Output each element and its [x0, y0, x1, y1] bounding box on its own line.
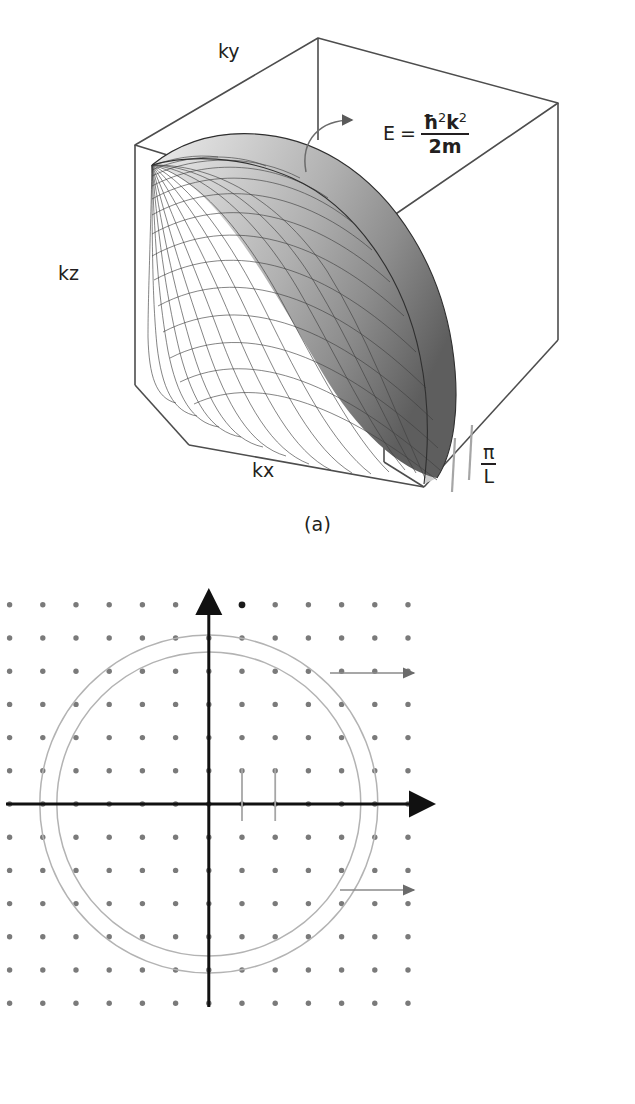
energy-formula-panel-a: E = ħ2k2 2m	[383, 112, 469, 156]
panel-b-graphic	[0, 552, 635, 1104]
caption-panel-a: (a)	[0, 513, 635, 535]
formula-hbar: ħ	[423, 111, 438, 133]
axis-label-ky-panel-a: ky	[218, 40, 240, 62]
panel-a-graphic	[0, 0, 635, 552]
spacing-ticks-2pi-over-L	[242, 768, 275, 821]
formula-k-exponent: 2	[459, 110, 467, 125]
formula-k: k	[446, 111, 459, 133]
axes-panel-b	[6, 600, 424, 1007]
highlighted-k-state	[239, 601, 246, 608]
formula-lhs: E	[383, 124, 395, 144]
axis-label-kz-panel-a: kz	[58, 262, 79, 284]
formula-fraction: ħ2k2 2m	[421, 112, 469, 156]
panel-b: kz kx 2π L E(k) + dE E(k) = ħ2k2 2m (b)	[0, 552, 635, 1104]
panel-a: ky kz kx E = ħ2k2 2m π L (a)	[0, 0, 635, 552]
pi-over-L-numerator: π	[481, 443, 496, 465]
formula-hbar-exponent: 2	[438, 110, 446, 125]
formula-equals: =	[400, 124, 416, 144]
energy-surface	[148, 134, 456, 484]
physics-figure: ky kz kx E = ħ2k2 2m π L (a)	[0, 0, 635, 1104]
pi-over-L-denominator: L	[481, 465, 496, 486]
formula-denominator: 2m	[426, 135, 463, 156]
spacing-label-pi-over-L: π L	[481, 443, 496, 486]
axis-label-kx-panel-a: kx	[252, 459, 274, 481]
pi-over-L-fraction: π L	[481, 443, 496, 486]
spacing-ticks-pi-over-L	[452, 425, 472, 492]
formula-numerator: ħ2k2	[421, 112, 469, 135]
